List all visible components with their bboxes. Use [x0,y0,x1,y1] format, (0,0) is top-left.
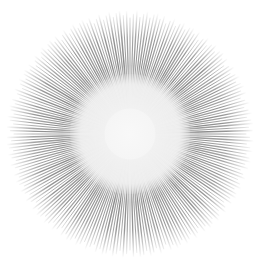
radial-starburst-graphic [0,0,266,271]
center-disc [70,74,190,194]
starburst-canvas [0,0,266,271]
